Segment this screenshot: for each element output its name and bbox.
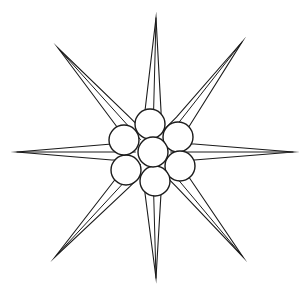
cluster-circle-lower xyxy=(140,166,170,196)
star-figure-svg xyxy=(0,0,307,295)
cluster-circle-upper-left xyxy=(109,125,139,155)
cluster-circle-upper xyxy=(135,109,165,139)
circle-cluster-group xyxy=(109,109,195,196)
cluster-circle-center xyxy=(138,137,168,167)
cluster-circle-lower-left xyxy=(111,155,141,185)
figure-canvas xyxy=(0,0,307,295)
